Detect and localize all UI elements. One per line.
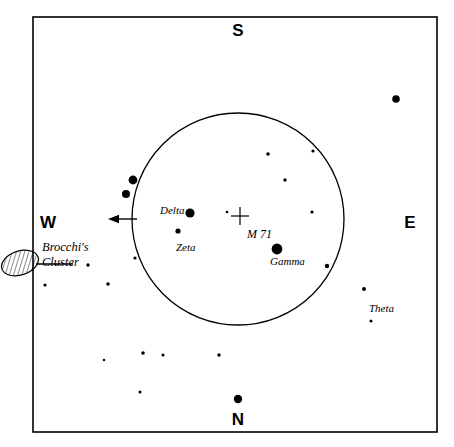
star-finder-chart: SNWE Brocchi'sClusterDeltaZetaGammaTheta… — [0, 0, 454, 447]
star-near-north-label — [234, 395, 242, 403]
label-m71: M 71 — [247, 228, 272, 240]
star-theta — [362, 287, 366, 291]
star-below-theta — [370, 320, 373, 323]
star-south-field-d — [103, 359, 105, 361]
star-zeta — [175, 228, 180, 233]
label-brocchis-cluster-line: Cluster — [42, 255, 89, 270]
star-field-ne-top — [266, 152, 270, 156]
star-sw-inner-rim — [133, 256, 136, 259]
star-upper-right-field — [392, 95, 400, 103]
cardinal-east: E — [404, 214, 415, 231]
star-delta — [185, 208, 194, 217]
star-south-field-e — [139, 391, 142, 394]
label-gamma: Gamma — [270, 255, 305, 267]
star-field-ne-outer — [310, 210, 313, 213]
star-faint-m71-companion — [226, 211, 229, 214]
star-west-edge-upper — [129, 176, 138, 185]
star-field-ne-high — [311, 149, 314, 152]
cardinal-west: W — [40, 214, 56, 231]
chart-canvas — [0, 0, 454, 447]
label-theta: Theta — [369, 302, 394, 314]
chart-border-frame — [33, 17, 437, 432]
label-zeta: Zeta — [176, 241, 196, 253]
cardinal-north: N — [232, 411, 244, 428]
star-south-field-a — [141, 351, 145, 355]
star-gamma — [272, 244, 283, 255]
star-west-edge-lower — [122, 190, 130, 198]
label-brocchis-cluster-line: Brocchi's — [42, 240, 89, 255]
star-field-ne-inner — [283, 178, 286, 181]
star-south-field-c — [217, 353, 220, 356]
star-below-cluster — [43, 283, 46, 286]
star-south-field-b — [162, 354, 165, 357]
label-brocchis-cluster: Brocchi'sCluster — [42, 240, 89, 271]
label-delta: Delta — [160, 204, 184, 216]
cardinal-south: S — [232, 22, 243, 39]
star-field-east-rim — [325, 264, 329, 268]
star-sw-outer — [106, 282, 110, 286]
